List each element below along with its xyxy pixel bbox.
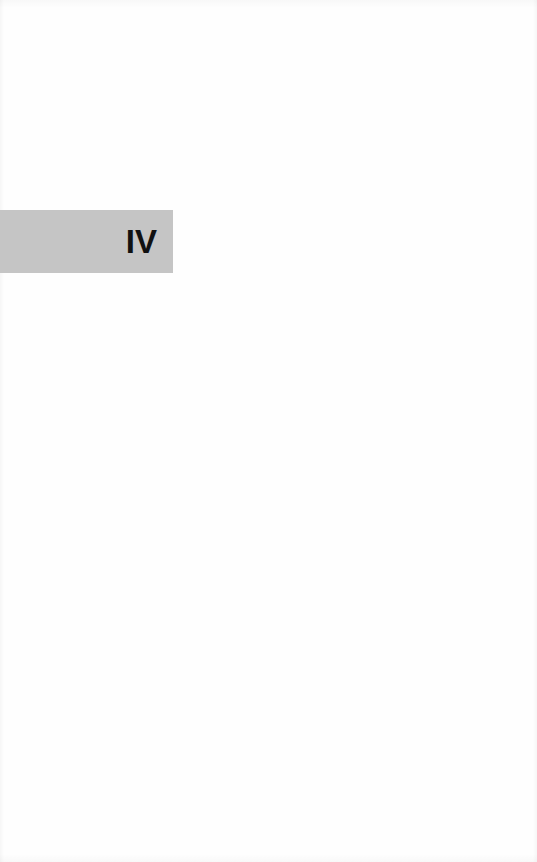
page-top-bleed bbox=[0, 0, 537, 8]
page-bottom-bleed bbox=[0, 854, 537, 862]
part-divider-tab: IV bbox=[0, 210, 173, 273]
page-right-edge bbox=[533, 0, 537, 862]
part-number: IV bbox=[126, 224, 157, 260]
book-page: IV bbox=[0, 0, 537, 862]
page-left-edge bbox=[0, 0, 4, 862]
